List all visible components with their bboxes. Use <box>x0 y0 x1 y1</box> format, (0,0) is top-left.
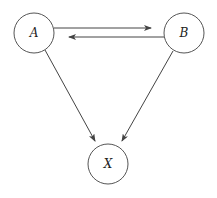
node-b: B <box>164 13 204 53</box>
diagram-canvas: A B X <box>0 0 217 198</box>
node-b-label: B <box>179 26 189 40</box>
edge-b-to-x <box>122 51 173 141</box>
edge-a-to-x <box>45 50 95 141</box>
node-a-label: A <box>29 26 39 40</box>
node-a: A <box>14 13 54 53</box>
node-x: X <box>88 144 128 184</box>
node-x-label: X <box>103 157 113 171</box>
